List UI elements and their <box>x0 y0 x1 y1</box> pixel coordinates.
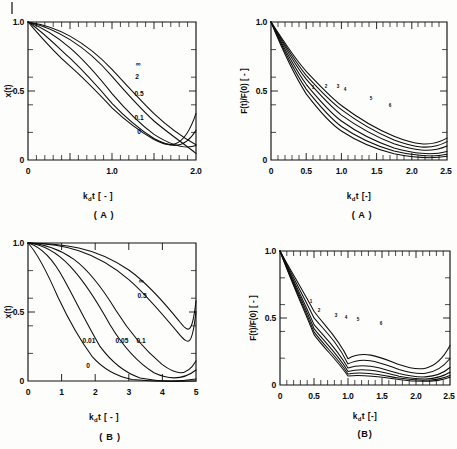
x-ticklabels: 0 0.5 1.0 1.5 2.0 2.5 <box>269 166 452 176</box>
x-axis-title: kdt [ - ] <box>89 412 119 423</box>
x-ticklabel-0p5: 0.5 <box>308 391 320 401</box>
y-ticklabel-0p5: 0.5 <box>13 86 25 96</box>
y-ticklabels: 0 0.5 1.0 <box>13 17 25 165</box>
curve-annotation-3: 3 <box>337 84 340 89</box>
x-ticklabel-0: 0 <box>278 391 283 401</box>
curve-label-0p5: 0.5 <box>137 292 146 299</box>
curves-group <box>280 251 450 381</box>
x-ticklabel-1p5: 1.5 <box>376 391 388 401</box>
x-ticklabel-2: 2 <box>93 387 98 397</box>
x-ticklabel-2p0: 2.0 <box>190 166 202 176</box>
x-ticklabels: 0 0.5 1.0 1.5 2.0 2.5 <box>278 391 455 401</box>
curve-label-0: 0 <box>137 128 141 135</box>
y-ticklabels: 0 0.5 1.0 <box>265 246 277 390</box>
figure-root: ∞ 2 0.5 0.1 0 0 0.5 1.0 0 1.0 2.0 x(t) k… <box>0 0 457 449</box>
curve-4 <box>271 22 447 154</box>
y-ticklabel-0p5: 0.5 <box>256 86 268 96</box>
curve-annotation-2: 2 <box>325 84 328 89</box>
x-axis-title: kdt [-] <box>347 191 372 202</box>
curve-annotation-5: 5 <box>357 317 360 322</box>
x-axis-title-tail: t [ - ] <box>98 412 119 422</box>
x-ticklabel-1p0: 1.0 <box>106 166 118 176</box>
left-axis-ticks <box>28 271 35 354</box>
curve-annotation-1: 1 <box>312 85 315 90</box>
x-ticklabel-1p0: 1.0 <box>336 166 348 176</box>
curve-label-inf: ∞ <box>136 60 141 67</box>
x-ticklabel-5: 5 <box>194 387 199 397</box>
curve-0 <box>28 22 196 145</box>
curve-6 <box>280 251 450 381</box>
x-ticklabel-0: 0 <box>269 166 274 176</box>
curve-label-0p1: 0.1 <box>134 114 143 121</box>
bottom-axis-ticks <box>36 153 187 160</box>
axes-frame-bottom-right <box>280 251 450 385</box>
curve-annotation-4: 4 <box>344 87 347 92</box>
top-axis-ticks <box>36 22 187 29</box>
bottom-axis-ticks <box>62 374 163 381</box>
x-axis-title: kdt [ - ] <box>83 191 113 202</box>
svg-text:kdt [-]: kdt [-] <box>353 411 378 422</box>
y-ticklabel-0p5: 0.5 <box>13 307 25 317</box>
x-ticklabel-1p0: 1.0 <box>342 391 354 401</box>
panel-bottom-right: 1 2 3 4 5 6 0 0.5 1.0 0 0.5 1.0 1.5 2.0 … <box>225 225 457 449</box>
panel-top-left: ∞ 2 0.5 0.1 0 0 0.5 1.0 0 1.0 2.0 x(t) k… <box>0 0 230 225</box>
curve-3 <box>271 22 447 150</box>
curve-label-0p01: 0.01 <box>83 337 96 344</box>
y-ticklabel-0: 0 <box>262 155 267 165</box>
x-axis-title-tail: t [ - ] <box>92 191 113 201</box>
x-axis-title-tail: t [-] <box>356 191 371 201</box>
x-ticklabel-1p5: 1.5 <box>371 166 383 176</box>
y-ticklabel-0: 0 <box>271 380 276 390</box>
x-ticklabel-0: 0 <box>26 166 31 176</box>
x-ticklabel-1: 1 <box>59 387 64 397</box>
y-ticklabel-1p0: 1.0 <box>13 17 25 27</box>
x-ticklabel-0: 0 <box>26 387 31 397</box>
curve-annotation-1: 1 <box>310 299 313 304</box>
right-axis-ticks <box>189 50 196 133</box>
y-ticklabel-1p0: 1.0 <box>256 17 268 27</box>
y-axis-title: F(t)/F(0) [ - ] <box>240 68 249 114</box>
curve-label-0p5: 0.5 <box>134 90 143 97</box>
curve-5 <box>271 22 447 156</box>
y-ticklabels: 0 0.5 1.0 <box>256 17 268 165</box>
curve-0p01 <box>28 243 196 381</box>
svg-text:kdt [ - ]: kdt [ - ] <box>83 191 113 202</box>
x-ticklabel-0p5: 0.5 <box>301 166 313 176</box>
x-ticklabel-2p0: 2.0 <box>406 166 418 176</box>
curve-0p1 <box>28 22 196 145</box>
curve-label-inf: ∞ <box>139 277 144 284</box>
x-ticklabels: 0 1.0 2.0 <box>26 166 202 176</box>
curve-annotation-2: 2 <box>318 308 321 313</box>
curve-labels-group: ∞ 0.5 0.1 0.05 0.01 0 <box>83 277 147 369</box>
y-ticklabel-1p0: 1.0 <box>265 246 277 256</box>
x-axis-title-tail: t [-] <box>362 411 377 421</box>
curve-label-0: 0 <box>86 362 90 369</box>
curve-label-0p1: 0.1 <box>136 337 145 344</box>
svg-text:kdt [-]: kdt [-] <box>347 191 372 202</box>
left-axis-ticks <box>28 50 35 133</box>
curve-inf <box>28 22 196 145</box>
axes-frame-top-right <box>271 22 447 160</box>
top-axis-ticks <box>278 22 439 29</box>
left-axis-ticks <box>280 278 287 358</box>
panel-caption: ( A ) <box>94 210 115 220</box>
x-ticklabel-3: 3 <box>127 387 132 397</box>
curve-annotation-5: 5 <box>370 96 373 101</box>
curve-label-0p05: 0.05 <box>116 337 129 344</box>
curve-annotation-6: 6 <box>380 321 383 326</box>
y-ticklabel-0: 0 <box>19 376 24 386</box>
x-ticklabel-2p0: 2.0 <box>410 391 422 401</box>
x-ticklabel-2p5: 2.5 <box>440 166 452 176</box>
curves-group <box>28 243 196 381</box>
right-axis-ticks <box>440 50 447 133</box>
y-axis-title: x(t) <box>4 84 13 97</box>
curve-annotation-6: 6 <box>389 103 392 108</box>
y-ticklabel-0p5: 0.5 <box>265 313 277 323</box>
curve-5 <box>280 251 450 380</box>
panel-bottom-left: ∞ 0.5 0.1 0.05 0.01 0 0 0.5 1.0 0 1 2 3 … <box>0 225 230 449</box>
panel-caption: (B) <box>358 429 373 439</box>
left-axis-ticks <box>271 50 278 133</box>
x-axis-title: kdt [-] <box>353 411 378 422</box>
curve-0p5 <box>28 243 196 341</box>
curve-labels-group: ∞ 2 0.5 0.1 0 <box>134 60 143 135</box>
